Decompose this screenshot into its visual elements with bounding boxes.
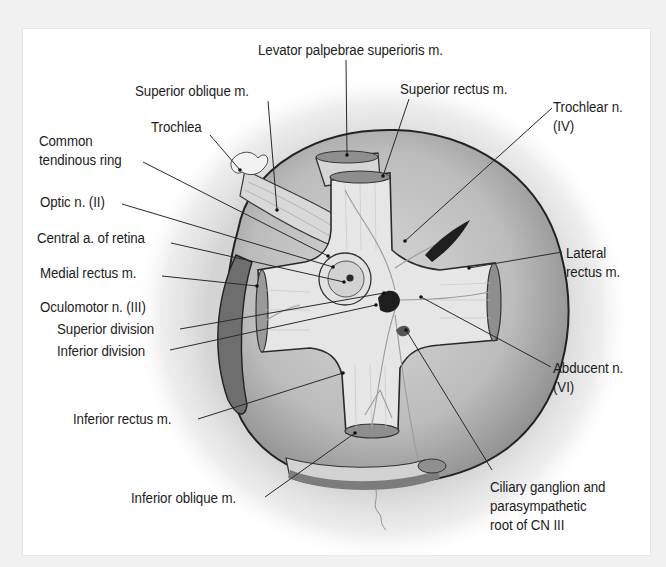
label-ciliary-ganglion: Ciliary ganglion and parasympathetic roo… [490, 477, 605, 534]
label-common-tendinous-ring: Common tendinous ring [39, 131, 122, 169]
label-superior-rectus: Superior rectus m. [400, 79, 507, 98]
label-inferior-oblique: Inferior oblique m. [131, 488, 236, 507]
label-trochlea: Trochlea [151, 117, 202, 136]
superior-rectus-cut [330, 171, 390, 183]
label-inferior-division: Inferior division [57, 341, 145, 360]
label-superior-division: Superior division [57, 319, 154, 338]
label-lateral-rectus: Lateral rectus m. [566, 243, 620, 281]
label-medial-rectus: Medial rectus m. [40, 263, 136, 282]
label-optic-n: Optic n. (II) [40, 192, 105, 211]
lateral-rectus-cut [487, 263, 501, 341]
medial-rectus-cut [256, 270, 268, 352]
central-artery [346, 274, 353, 281]
label-trochlear-n: Trochlear n. (IV) [553, 97, 623, 135]
label-levator-palpebrae: Levator palpebrae superioris m. [258, 40, 443, 59]
label-central-a-retina: Central a. of retina [37, 228, 145, 247]
label-abducent-n: Abducent n. (VI) [553, 358, 623, 396]
label-inferior-rectus: Inferior rectus m. [73, 409, 171, 428]
label-oculomotor-n: Oculomotor n. (III) [40, 297, 146, 316]
label-superior-oblique: Superior oblique m. [135, 81, 249, 100]
